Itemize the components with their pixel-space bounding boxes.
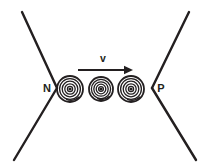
- label-n-region: N: [43, 82, 51, 94]
- vortex-left: [57, 76, 83, 102]
- vortex-left-core: [68, 87, 71, 90]
- vortex-right: [118, 76, 144, 102]
- label-velocity: v: [100, 52, 106, 64]
- label-p-region: P: [157, 82, 164, 94]
- diagram-svg: N P v: [0, 0, 203, 168]
- velocity-arrow-head: [124, 66, 133, 74]
- figure-canvas: N P v: [0, 0, 203, 168]
- velocity-arrow: [78, 66, 133, 74]
- left-lower-boundary-line: [14, 88, 57, 160]
- vortex-middle: [89, 77, 113, 101]
- left-upper-boundary-line: [22, 12, 57, 88]
- vortex-group: [57, 76, 144, 102]
- vortex-middle-core: [99, 87, 102, 90]
- vortex-right-core: [129, 87, 132, 90]
- right-upper-boundary-line: [152, 12, 189, 88]
- right-lower-boundary-line: [152, 88, 196, 160]
